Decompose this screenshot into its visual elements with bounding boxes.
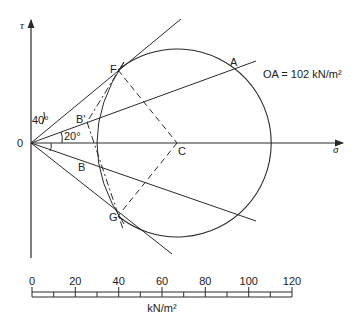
sigma-label: σ <box>333 143 339 155</box>
lower-20deg-line <box>31 143 256 221</box>
scale-tick-60: 60 <box>156 275 168 287</box>
lower-tangent-line <box>31 143 172 254</box>
mohr-circle-diagram: τ σ 0 40° 20° F A B' B C G OA = 102 kN/m… <box>0 0 363 332</box>
angle-lower-arc <box>50 143 51 151</box>
point-Bprime-label: B' <box>76 113 85 125</box>
angle-20-label: 20° <box>64 130 81 142</box>
point-C-label: C <box>178 145 186 157</box>
scale-tick-80: 80 <box>199 275 211 287</box>
scale-tick-120: 120 <box>283 275 301 287</box>
dashed-FC <box>118 70 177 143</box>
scale-tick-40: 40 <box>113 275 125 287</box>
scale-tick-20: 20 <box>69 275 81 287</box>
angle-40-label: 40° <box>32 114 49 126</box>
point-B-label: B <box>78 161 85 173</box>
upper-tangent-line <box>31 19 181 143</box>
scale-unit-label: kN/m² <box>147 302 177 314</box>
dashed-CG <box>118 143 177 216</box>
angle-20-arc <box>61 132 62 143</box>
point-F-label: F <box>110 63 117 75</box>
scale-bar <box>32 287 292 297</box>
origin-label: 0 <box>17 137 23 149</box>
point-A-label: A <box>230 56 238 68</box>
oa-annotation: OA = 102 kN/m² <box>263 68 342 80</box>
scale-tick-0: 0 <box>29 275 35 287</box>
scale-tick-100: 100 <box>240 275 258 287</box>
tau-label: τ <box>20 19 25 31</box>
point-G-label: G <box>109 211 118 223</box>
dashdot-Bprime-G <box>87 122 123 229</box>
